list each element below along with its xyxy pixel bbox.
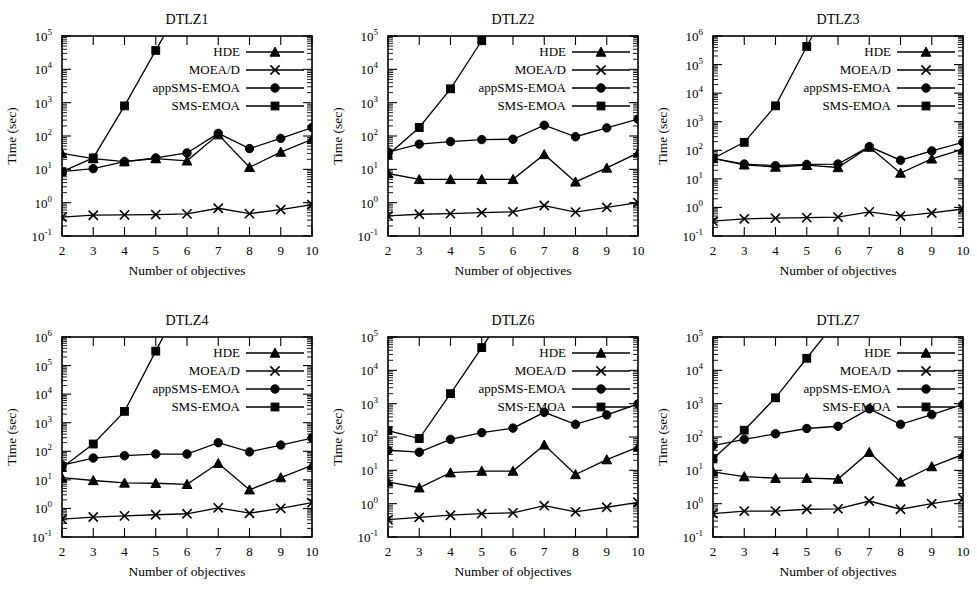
y-axis-tick-label: 100 [35,194,53,211]
data-point-triangle [276,147,286,156]
x-axis-tick-label: 4 [773,243,780,258]
data-point-square [597,102,605,110]
y-axis-tick-label: 10-1 [32,227,53,244]
data-point-circle [477,428,485,436]
x-axis-tick-label: 6 [835,544,842,559]
chart-panel-dtlz2: DTLZ210-11001011021031041052345678910Num… [326,0,652,301]
x-axis-tick-label: 8 [246,544,253,559]
series-line [62,205,312,217]
x-axis-tick-label: 3 [416,243,423,258]
data-point-circle [120,452,128,460]
data-point-circle [183,450,191,458]
y-axis-tick-label: 103 [686,395,704,412]
data-point-circle [709,441,717,449]
chart-panel-dtlz7: DTLZ710-11001011021031041052345678910Num… [651,301,977,602]
x-axis-tick-label: 7 [215,243,222,258]
x-axis-tick-label: 8 [572,544,579,559]
series-hde [383,440,643,492]
data-point-circle [245,448,253,456]
data-point-circle [834,160,842,168]
plot-frame [713,337,963,537]
x-axis-tick-label: 10 [631,544,644,559]
data-point-square [121,407,129,415]
x-axis-tick-label: 3 [90,544,97,559]
legend-label-appsms-emoa: appSMS-EMOA [153,80,241,95]
y-axis-tick-label: 101 [686,461,704,478]
data-point-square [709,455,717,463]
x-axis-tick-label: 10 [631,243,644,258]
panel-title: DTLZ4 [166,313,209,328]
x-axis-tick-label: 2 [710,243,717,258]
legend-label-appsms-emoa: appSMS-EMOA [804,381,892,396]
y-axis-tick-label: 105 [686,56,704,73]
y-axis-tick-label: 103 [360,94,378,111]
data-point-square [415,435,423,443]
x-axis-tick-label: 7 [866,544,873,559]
y-axis-tick-label: 103 [686,113,704,130]
series-line [388,348,482,439]
y-axis-tick-label: 104 [360,60,378,77]
x-axis-tick-label: 4 [121,544,128,559]
data-point-triangle [865,447,875,456]
y-axis-tick-label: 100 [360,194,378,211]
x-axis-tick-label: 6 [184,544,191,559]
legend-label-sms-emoa: SMS-EMOA [823,98,892,113]
data-point-circle [89,454,97,462]
series-line [713,499,963,514]
plot-frame [388,337,638,537]
y-axis-tick-label: 100 [360,495,378,512]
y-axis-tick-label: 105 [35,357,53,374]
data-point-circle [183,149,191,157]
series-moea-d [57,200,316,222]
data-point-square [741,426,749,434]
y-axis-tick-label: 10-1 [683,227,704,244]
x-axis-tick-label: 4 [773,544,780,559]
x-axis-tick-label: 2 [384,544,391,559]
legend-label-moea-d: MOEA/D [189,62,240,77]
data-point-circle [540,121,548,129]
data-point-square [446,85,454,93]
series-moea-d [57,498,316,524]
y-axis-tick-label: 102 [360,127,378,144]
y-axis-tick-label: 104 [686,84,704,101]
data-point-circle [308,123,316,131]
y-axis-tick-label: 102 [35,127,53,144]
data-point-circle [928,410,936,418]
x-axis-tick-label: 7 [215,544,222,559]
data-point-square [89,440,97,448]
data-point-circle [508,135,516,143]
x-axis-tick-label: 8 [898,544,905,559]
x-axis-tick-label: 5 [153,243,160,258]
series-line [388,203,638,216]
y-axis-tick-label: 10-1 [683,528,704,545]
series-moea-d [383,198,642,220]
chart-svg-dtlz3: DTLZ310-11001011021031041051062345678910… [651,0,976,301]
data-point-triangle [602,455,612,464]
y-axis-tick-label: 10-1 [357,528,378,545]
data-point-circle [865,142,873,150]
data-point-circle [772,161,780,169]
series-line [62,50,156,171]
data-point-triangle [383,169,393,178]
data-point-square [58,464,66,472]
chart-svg-dtlz4: DTLZ410-11001011021031041051062345678910… [0,301,325,602]
x-axis-tick-label: 8 [246,243,253,258]
data-point-circle [446,435,454,443]
x-axis-tick-label: 7 [541,544,548,559]
data-point-circle [571,133,579,141]
data-point-square [446,390,454,398]
chart-panel-dtlz3: DTLZ310-11001011021031041051062345678910… [651,0,977,301]
legend-label-sms-emoa: SMS-EMOA [497,98,566,113]
legend-label-sms-emoa: SMS-EMOA [823,399,892,414]
x-axis-tick-label: 6 [509,544,516,559]
x-axis-title: Number of objectives [780,263,897,278]
legend-label-sms-emoa: SMS-EMOA [497,399,566,414]
series-moea-d [383,498,642,525]
y-axis-title: Time (sec) [330,408,345,466]
data-point-x [865,496,874,505]
data-point-square [741,138,749,146]
x-axis-tick-label: 2 [384,243,391,258]
data-point-circle [897,156,905,164]
data-point-square [89,154,97,162]
panel-title: DTLZ6 [491,313,534,328]
